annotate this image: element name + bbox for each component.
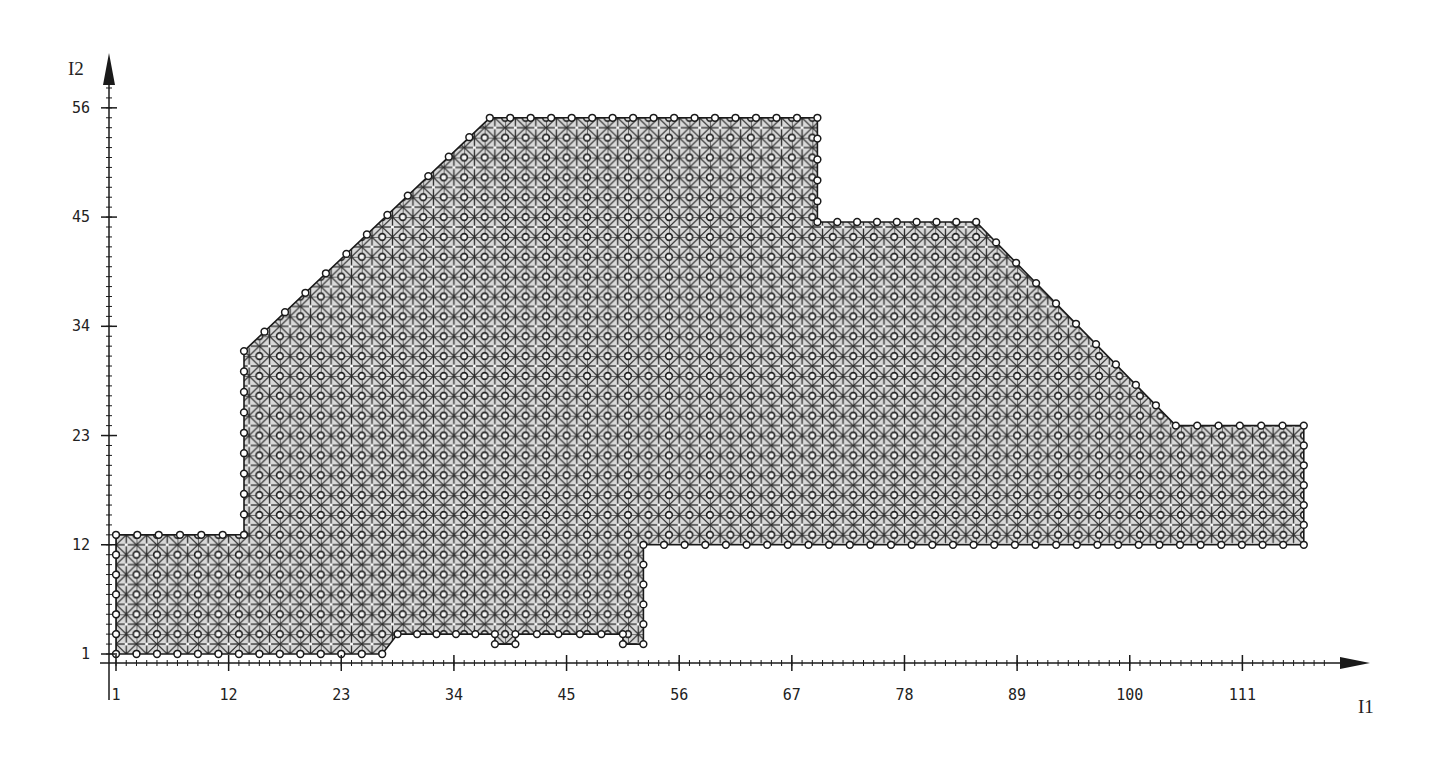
- boundary-node: [241, 348, 248, 355]
- boundary-node: [492, 641, 499, 648]
- boundary-node: [1133, 382, 1140, 389]
- boundary-node: [640, 561, 647, 568]
- boundary-node: [379, 651, 386, 658]
- boundary-node: [640, 601, 647, 608]
- boundary-node: [433, 631, 440, 638]
- boundary-node: [846, 541, 853, 548]
- y-axis-arrow-icon: [103, 53, 115, 85]
- boundary-node: [113, 611, 120, 618]
- boundary-node: [993, 239, 1000, 246]
- boundary-node: [712, 114, 719, 121]
- boundary-node: [1013, 259, 1020, 266]
- boundary-node: [1113, 361, 1120, 368]
- boundary-node: [598, 631, 605, 638]
- boundary-node: [671, 114, 678, 121]
- boundary-node: [113, 551, 120, 558]
- y-axis-title: I2: [68, 58, 84, 79]
- y-tick-label: 1: [81, 645, 90, 663]
- x-tick-label: 12: [220, 686, 238, 704]
- boundary-node: [929, 541, 936, 548]
- boundary-node: [1300, 522, 1307, 529]
- boundary-node: [404, 192, 411, 199]
- boundary-node: [620, 631, 627, 638]
- x-tick-label: 34: [445, 686, 463, 704]
- boundary-node: [1053, 300, 1060, 307]
- boundary-node: [1236, 422, 1243, 429]
- boundary-node: [219, 531, 226, 538]
- boundary-node: [241, 389, 248, 396]
- boundary-node: [364, 231, 371, 238]
- boundary-node: [834, 219, 841, 226]
- boundary-node: [241, 531, 248, 538]
- boundary-node: [893, 219, 900, 226]
- boundary-node: [589, 114, 596, 121]
- boundary-node: [527, 114, 534, 121]
- y-tick-label: 34: [72, 317, 90, 335]
- boundary-node: [512, 631, 519, 638]
- boundary-node: [950, 541, 957, 548]
- boundary-node: [507, 114, 514, 121]
- boundary-node: [414, 631, 421, 638]
- boundary-node: [640, 581, 647, 588]
- boundary-node: [620, 641, 627, 648]
- x-tick-label: 78: [895, 686, 913, 704]
- mesh-diagram: 1122334455667788910011111223344556I1I2: [0, 0, 1444, 763]
- boundary-node: [753, 114, 760, 121]
- x-axis-title: I1: [1358, 696, 1374, 717]
- boundary-node: [826, 541, 833, 548]
- boundary-node: [297, 651, 304, 658]
- boundary-node: [732, 114, 739, 121]
- boundary-node: [640, 641, 647, 648]
- boundary-node: [814, 156, 821, 163]
- x-tick-label: 111: [1229, 686, 1256, 704]
- boundary-node: [384, 212, 391, 219]
- x-tick-label: 1: [111, 686, 120, 704]
- boundary-node: [241, 511, 248, 518]
- boundary-node: [814, 177, 821, 184]
- boundary-node: [630, 114, 637, 121]
- boundary-node: [198, 531, 205, 538]
- boundary-node: [174, 651, 181, 658]
- boundary-node: [1115, 541, 1122, 548]
- boundary-node: [486, 114, 493, 121]
- boundary-node: [534, 631, 541, 638]
- boundary-node: [241, 470, 248, 477]
- boundary-node: [133, 651, 140, 658]
- boundary-node: [555, 631, 562, 638]
- boundary-node: [650, 114, 657, 121]
- region-polygon: [116, 118, 1304, 654]
- boundary-node: [261, 328, 268, 335]
- boundary-node: [394, 631, 401, 638]
- boundary-node: [1093, 341, 1100, 348]
- boundary-node: [1300, 422, 1307, 429]
- boundary-node: [466, 134, 473, 141]
- boundary-node: [681, 541, 688, 548]
- y-tick-label: 56: [72, 99, 90, 117]
- boundary-node: [805, 541, 812, 548]
- boundary-node: [241, 409, 248, 416]
- boundary-node: [113, 591, 120, 598]
- boundary-node: [743, 541, 750, 548]
- boundary-node: [302, 289, 309, 296]
- x-tick-label: 89: [1008, 686, 1026, 704]
- boundary-node: [241, 450, 248, 457]
- boundary-node: [1279, 422, 1286, 429]
- x-tick-label: 45: [558, 686, 576, 704]
- boundary-node: [854, 219, 861, 226]
- boundary-node: [256, 651, 263, 658]
- boundary-node: [764, 541, 771, 548]
- boundary-node: [241, 368, 248, 375]
- mesh-region: [113, 114, 1308, 657]
- boundary-node: [1300, 502, 1307, 509]
- boundary-node: [492, 631, 499, 638]
- boundary-node: [1053, 541, 1060, 548]
- boundary-node: [794, 114, 801, 121]
- boundary-node: [1032, 541, 1039, 548]
- boundary-node: [1215, 422, 1222, 429]
- boundary-node: [1300, 482, 1307, 489]
- boundary-node: [888, 541, 895, 548]
- boundary-node: [1012, 541, 1019, 548]
- boundary-node: [1033, 280, 1040, 287]
- boundary-node: [913, 219, 920, 226]
- boundary-node: [1218, 541, 1225, 548]
